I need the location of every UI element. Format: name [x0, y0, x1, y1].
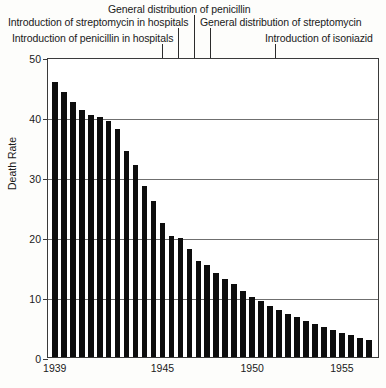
bar — [61, 92, 67, 357]
annotation-label-penicillin-hospitals: Introduction of penicillin in hospitals — [12, 32, 173, 44]
y-tick-label-50: 50 — [7, 53, 41, 65]
bar — [88, 115, 94, 357]
y-tick-mark-20 — [43, 239, 48, 240]
x-tick-label-1955: 1955 — [330, 362, 353, 374]
bar — [160, 223, 166, 357]
y-tick-label-0: 0 — [7, 353, 41, 365]
bar — [204, 265, 210, 357]
bar — [151, 201, 157, 357]
bar — [133, 165, 139, 357]
bar — [213, 273, 219, 357]
bar — [312, 324, 318, 357]
y-tick-label-40: 40 — [7, 113, 41, 125]
y-tick-mark-40 — [43, 119, 48, 120]
bar — [231, 284, 237, 357]
bar — [52, 82, 58, 357]
y-tick-mark-10 — [43, 299, 48, 300]
bar — [339, 333, 345, 357]
bar — [303, 321, 309, 357]
annotation-label-general-streptomycin: General distribution of streptomycin — [200, 16, 362, 28]
annotation-label-isoniazid: Introduction of isoniazid — [265, 32, 373, 44]
y-tick-label-20: 20 — [7, 233, 41, 245]
bar — [97, 117, 103, 357]
bar — [178, 238, 184, 357]
bar — [169, 236, 175, 357]
annotation-label-streptomycin-hospitals: Introduction of streptomycin in hospital… — [8, 16, 188, 28]
bar — [249, 297, 255, 357]
bar — [366, 340, 372, 357]
bar — [357, 338, 363, 357]
bar — [70, 102, 76, 357]
y-tick-mark-50 — [43, 59, 48, 60]
bar — [330, 330, 336, 357]
y-tick-mark-0 — [43, 359, 48, 360]
bar — [348, 335, 354, 357]
x-tick-label-1950: 1950 — [241, 362, 264, 374]
y-axis-title: Death Rate — [6, 137, 18, 190]
bar — [276, 310, 282, 357]
bar — [115, 129, 121, 357]
bar — [124, 151, 130, 357]
bar — [79, 110, 85, 357]
bar — [321, 327, 327, 357]
x-tick-label-1945: 1945 — [151, 362, 174, 374]
y-tick-mark-30 — [43, 179, 48, 180]
x-tick-label-1939: 1939 — [43, 362, 66, 374]
annotation-label-general-penicillin: General distribution of penicillin — [108, 3, 251, 15]
bar — [258, 301, 264, 357]
bar — [222, 279, 228, 357]
tuberculosis-death-rate-figure: General distribution of penicillin Intro… — [0, 0, 386, 388]
bar — [294, 317, 300, 357]
bar — [187, 249, 193, 357]
bar — [142, 186, 148, 357]
bar — [196, 261, 202, 357]
bar — [267, 306, 273, 357]
bar — [240, 291, 246, 357]
plot-area: 010203040501939194519501955 — [47, 58, 379, 358]
y-tick-label-10: 10 — [7, 293, 41, 305]
bar — [106, 121, 112, 357]
bar — [285, 314, 291, 357]
